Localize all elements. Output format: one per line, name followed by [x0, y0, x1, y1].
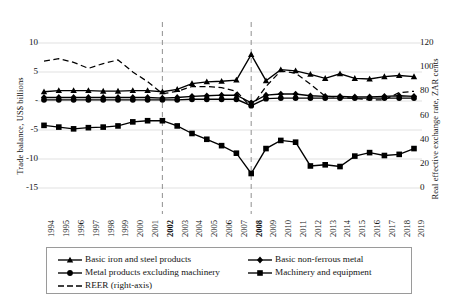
data-point	[337, 164, 343, 170]
x-tick-2013: 2013	[329, 220, 338, 237]
data-point	[257, 257, 263, 264]
y-tick-right: 40	[420, 135, 450, 144]
x-tick-1999: 1999	[121, 220, 130, 237]
x-tick-2017: 2017	[388, 220, 397, 237]
data-point	[174, 123, 180, 129]
series-machinery-and-equipment	[41, 118, 417, 176]
legend-label: Basic iron and steel products	[85, 254, 191, 264]
data-point	[293, 95, 299, 101]
data-point	[396, 152, 402, 158]
data-point	[411, 95, 417, 101]
x-tick-2012: 2012	[314, 220, 323, 237]
data-point	[411, 146, 417, 152]
series-basic-iron-and-steel-products	[41, 51, 417, 94]
legend-marker-triangle	[57, 255, 83, 265]
x-tick-1998: 1998	[107, 220, 116, 237]
series-line	[44, 55, 414, 92]
x-tick-2007: 2007	[240, 220, 249, 237]
x-tick-2002: 2002	[166, 220, 175, 237]
legend-marker-square	[247, 268, 273, 278]
data-point	[67, 270, 73, 276]
legend-label: Machinery and equipment	[275, 267, 371, 277]
data-point	[71, 126, 77, 132]
data-point	[322, 95, 328, 101]
y-tick-right: 100	[420, 62, 450, 71]
data-point	[145, 118, 151, 124]
data-point	[204, 136, 210, 142]
data-point	[248, 51, 254, 57]
chart-legend: Basic iron and steel productsMetal produ…	[46, 247, 412, 294]
data-point	[100, 97, 106, 103]
x-tick-2004: 2004	[195, 220, 204, 237]
data-point	[86, 125, 92, 131]
x-tick-2019: 2019	[417, 220, 426, 237]
data-point	[71, 97, 77, 103]
y-tick-left: -5	[6, 125, 38, 134]
data-point	[56, 97, 62, 103]
x-tick-2006: 2006	[225, 220, 234, 237]
y-tick-left: -15	[6, 183, 38, 192]
data-point	[204, 96, 210, 102]
legend-label: Metal products excluding machinery	[85, 267, 220, 277]
data-point	[308, 95, 314, 101]
data-point	[160, 118, 166, 124]
x-tick-2001: 2001	[151, 220, 160, 237]
data-point	[130, 97, 136, 103]
x-tick-2005: 2005	[210, 220, 219, 237]
data-point	[322, 162, 328, 168]
data-point	[100, 124, 106, 130]
data-point	[263, 146, 269, 152]
data-point	[115, 97, 121, 103]
data-point	[219, 96, 225, 102]
data-point	[257, 270, 263, 276]
y-tick-left: -10	[6, 154, 38, 163]
data-point	[293, 139, 299, 145]
x-tick-1994: 1994	[47, 220, 56, 237]
legend-marker-circle	[57, 268, 83, 278]
data-point	[382, 95, 388, 101]
x-tick-2003: 2003	[181, 220, 190, 237]
data-point	[396, 95, 402, 101]
data-point	[174, 97, 180, 103]
x-tick-1997: 1997	[92, 220, 101, 237]
data-point	[278, 138, 284, 144]
x-tick-1995: 1995	[62, 220, 71, 237]
x-tick-2014: 2014	[343, 220, 352, 237]
y-tick-left: 5	[6, 67, 38, 76]
data-point	[130, 119, 136, 125]
legend-label: REER (right-axis)	[85, 280, 152, 290]
data-point	[382, 153, 388, 159]
x-tick-2011: 2011	[299, 220, 308, 237]
data-point	[367, 150, 373, 156]
data-point	[56, 124, 62, 130]
x-tick-2000: 2000	[136, 220, 145, 237]
data-point	[263, 96, 269, 102]
x-tick-2015: 2015	[358, 220, 367, 237]
data-point	[308, 163, 314, 169]
y-tick-left: 10	[6, 38, 38, 47]
x-tick-2016: 2016	[373, 220, 382, 237]
data-point	[189, 96, 195, 102]
data-point	[189, 131, 195, 137]
x-tick-2010: 2010	[284, 220, 293, 237]
y-tick-right: 120	[420, 38, 450, 47]
x-tick-2008: 2008	[255, 220, 264, 237]
y-tick-right: 0	[420, 183, 450, 192]
x-tick-2018: 2018	[403, 220, 412, 237]
data-point	[352, 153, 358, 159]
y-tick-right: 80	[420, 86, 450, 95]
data-point	[86, 97, 92, 103]
y-tick-right: 60	[420, 111, 450, 120]
data-point	[248, 171, 254, 177]
data-point	[41, 97, 47, 103]
legend-marker-diamond	[247, 255, 273, 265]
y-tick-right: 20	[420, 159, 450, 168]
x-tick-2009: 2009	[269, 220, 278, 237]
data-point	[145, 97, 151, 103]
data-point	[234, 150, 240, 156]
data-point	[160, 97, 166, 103]
legend-label: Basic non-ferrous metal	[275, 254, 363, 264]
chart-figure: Trade balance, US$ billions Real effecti…	[0, 0, 457, 299]
data-point	[219, 143, 225, 149]
y-tick-left: -	[6, 96, 38, 105]
